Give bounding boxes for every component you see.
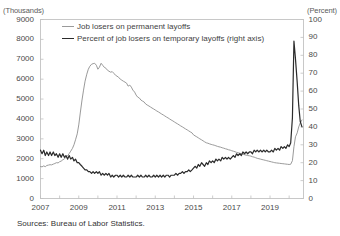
left-ytick-label: 3000	[4, 134, 34, 143]
legend-swatch-temporary-icon	[62, 38, 74, 39]
right-ytick-label: 40	[309, 122, 339, 131]
left-ytick-label: 4000	[4, 114, 34, 123]
left-ytick-label: 0	[4, 194, 34, 203]
xtick-label: 2007	[24, 203, 58, 212]
left-ytick-label: 6000	[4, 74, 34, 83]
plot-frame	[41, 20, 304, 199]
left-ytick-label: 7000	[4, 54, 34, 63]
right-ytick-label: 0	[309, 194, 339, 203]
right-ytick-label: 80	[309, 50, 339, 59]
left-ytick-label: 9000	[4, 15, 34, 24]
chart-legend: Job losers on permanent layoffs Percent …	[62, 21, 264, 44]
series-line-temporary-layoffs-percent	[41, 41, 302, 177]
xtick-label: 2019	[253, 203, 287, 212]
axis-ticks	[41, 20, 304, 199]
right-ytick-label: 100	[309, 15, 339, 24]
left-ytick-label: 2000	[4, 154, 34, 163]
right-ytick-label: 10	[309, 176, 339, 185]
chart-figure: (Thousands) (Percent) Job losers on perm…	[0, 0, 340, 236]
data-series-group	[41, 41, 302, 177]
legend-label-permanent: Job losers on permanent layoffs	[77, 21, 190, 33]
right-ytick-label: 50	[309, 104, 339, 113]
legend-item-temporary: Percent of job losers on temporary layof…	[62, 33, 264, 45]
right-ytick-label: 30	[309, 140, 339, 149]
xtick-label: 2011	[100, 203, 134, 212]
left-ytick-label: 8000	[4, 34, 34, 43]
legend-swatch-permanent-icon	[62, 26, 74, 27]
source-note: Sources: Bureau of Labor Statistics.	[17, 219, 145, 228]
xtick-label: 2009	[62, 203, 96, 212]
xtick-label: 2017	[215, 203, 249, 212]
xtick-label: 2015	[177, 203, 211, 212]
right-ytick-label: 60	[309, 86, 339, 95]
left-ytick-label: 5000	[4, 94, 34, 103]
legend-label-temporary: Percent of job losers on temporary layof…	[77, 33, 264, 45]
right-ytick-label: 20	[309, 158, 339, 167]
left-ytick-label: 1000	[4, 174, 34, 183]
legend-item-permanent: Job losers on permanent layoffs	[62, 21, 264, 33]
xtick-label: 2013	[138, 203, 172, 212]
right-ytick-label: 90	[309, 32, 339, 41]
right-ytick-label: 70	[309, 68, 339, 77]
